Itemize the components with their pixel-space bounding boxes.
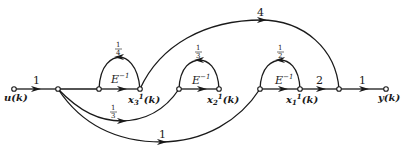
node-x3-in xyxy=(97,87,102,92)
node-x2-in xyxy=(177,87,182,92)
gain-n2-to-y: 1 xyxy=(359,74,366,87)
gain-n1-to-x1in: 1 xyxy=(159,128,166,141)
label-x1: x11(k) xyxy=(285,92,318,107)
x2-loop-gain-num: 1 xyxy=(196,44,200,52)
label-u: u(k) xyxy=(4,92,28,103)
diagram-canvas: 1 u(k) 1 4 E−1 x31(k) 1 3 E−1 x21(k) 1 2… xyxy=(0,0,410,149)
node-output xyxy=(384,87,389,92)
signal-flow-diagram: 1 u(k) 1 4 E−1 x31(k) 1 3 E−1 x21(k) 1 2… xyxy=(0,0,410,149)
node-input xyxy=(12,87,17,92)
edge-x3-to-n2 xyxy=(140,20,339,89)
node-x3 xyxy=(138,87,143,92)
x1-delay-gain: E−1 xyxy=(274,73,293,87)
node-n1 xyxy=(56,87,61,92)
edge-n1-to-x2in xyxy=(58,89,179,121)
x2-delay-gain: E−1 xyxy=(191,73,210,87)
x3-loop-gain-num: 1 xyxy=(116,41,120,49)
ff-gain-num: 1 xyxy=(111,104,115,112)
x1-loop-gain-num: 1 xyxy=(278,44,282,52)
label-y: y(k) xyxy=(377,92,400,103)
x1-loop-gain-den: 2 xyxy=(278,52,282,60)
label-x3: x31(k) xyxy=(127,92,160,107)
node-x2 xyxy=(217,87,222,92)
gain-u: 1 xyxy=(33,74,40,87)
node-x1-in xyxy=(258,87,263,92)
ff-gain-den: 3 xyxy=(111,112,115,120)
gain-x3-to-n2: 4 xyxy=(257,6,264,19)
x3-delay-gain: E−1 xyxy=(110,72,129,86)
label-x2: x21(k) xyxy=(206,92,239,107)
node-x1 xyxy=(298,87,303,92)
gain-x1-to-n2: 2 xyxy=(316,74,323,87)
x2-loop-gain-den: 3 xyxy=(196,52,200,60)
node-n2 xyxy=(337,87,342,92)
x3-loop-gain-den: 4 xyxy=(116,49,121,57)
